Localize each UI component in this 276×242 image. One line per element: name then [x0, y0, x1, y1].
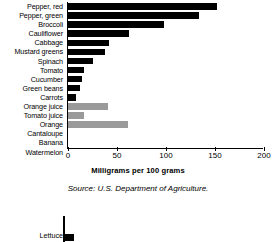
x-axis-title: Milligrams per 100 grams — [0, 166, 276, 175]
lettuce-label: Lettuce — [39, 231, 63, 240]
category-axis-labels: Pepper, redPepper, greenBroccoliCauliflo… — [0, 2, 65, 148]
bar — [68, 94, 76, 100]
lettuce-bar-chart-partial: Lettuce — [0, 212, 276, 242]
bar-row — [67, 20, 263, 29]
category-label: Orange juice — [0, 102, 65, 111]
x-tick-label: 150 — [208, 151, 221, 160]
category-label: Cauliflower — [0, 29, 65, 38]
bar-row — [67, 102, 263, 111]
bar — [68, 121, 128, 127]
category-label: Mustard greens — [0, 47, 65, 56]
category-label: Tomato juice — [0, 111, 65, 120]
category-label: Orange — [0, 120, 65, 129]
category-label: Banana — [0, 138, 65, 147]
bar-series — [67, 2, 263, 157]
bar — [68, 58, 93, 64]
category-label: Carrots — [0, 93, 65, 102]
source-note: Source: U.S. Department of Agriculture. — [0, 184, 276, 193]
bar — [68, 49, 104, 55]
category-label: Cabbage — [0, 38, 65, 47]
bar-row — [67, 120, 263, 129]
bar — [68, 112, 84, 118]
category-label: Cantaloupe — [0, 129, 65, 138]
bar — [68, 30, 129, 36]
bar — [68, 40, 108, 46]
lettuce-bar — [65, 234, 75, 241]
bar-row — [67, 2, 263, 11]
bar — [68, 67, 84, 73]
x-tick-label: 200 — [257, 151, 270, 160]
bar-row — [67, 111, 263, 120]
bar-row — [67, 38, 263, 47]
category-label: Cucumber — [0, 75, 65, 84]
bar-row — [67, 84, 263, 93]
bar-row — [67, 11, 263, 20]
bar — [68, 21, 164, 27]
bar-row — [67, 75, 263, 84]
category-label: Tomato — [0, 66, 65, 75]
bar-row — [67, 29, 263, 38]
plot-area — [67, 2, 263, 148]
category-label: Green beans — [0, 84, 65, 93]
category-label: Pepper, green — [0, 11, 65, 20]
bar-row — [67, 93, 263, 102]
bar-row — [67, 66, 263, 75]
bar-row — [67, 129, 263, 138]
bar-row — [67, 57, 263, 66]
bar-row — [67, 47, 263, 56]
bar — [68, 103, 107, 109]
x-tick-label: 50 — [113, 151, 122, 160]
category-label: Spinach — [0, 57, 65, 66]
x-tick-label: 0 — [66, 151, 70, 160]
x-axis-ticks: 050100150200 — [67, 147, 263, 163]
bar — [68, 3, 217, 9]
bar — [68, 12, 198, 18]
x-tick-label: 100 — [159, 151, 172, 160]
category-label: Broccoli — [0, 20, 65, 29]
vitamin-c-bar-chart: Pepper, redPepper, greenBroccoliCauliflo… — [0, 0, 276, 160]
bar — [68, 85, 80, 91]
category-label: Watermelon — [0, 148, 65, 157]
bar — [68, 76, 82, 82]
category-label: Pepper, red — [0, 2, 65, 11]
